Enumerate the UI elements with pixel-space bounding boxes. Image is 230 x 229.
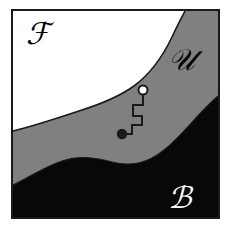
path-start-filled-dot bbox=[118, 130, 127, 139]
region-label-background: ℬ bbox=[168, 180, 194, 215]
path-end-open-circle bbox=[139, 86, 148, 95]
figure-container: ℱ 𝒰 ℬ bbox=[0, 0, 230, 229]
region-partition-diagram: ℱ 𝒰 ℬ bbox=[0, 0, 230, 229]
